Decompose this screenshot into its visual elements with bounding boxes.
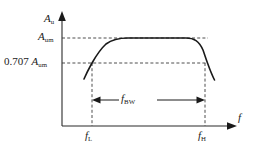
lower-cutoff-label: fL (85, 130, 92, 141)
gain-response-curve (84, 38, 215, 80)
x-axis-arrowhead (227, 122, 237, 130)
half-power-label: 0.707 Aum (4, 56, 47, 67)
x-axis-label: f (238, 112, 241, 123)
y-axis-arrowhead (58, 11, 66, 21)
midband-gain-label: Aum (38, 31, 54, 42)
bandwidth-label: fBW (121, 93, 135, 104)
upper-cutoff-label: fH (198, 130, 206, 141)
frequency-response-figure: Au Aum 0.707 Aum fBW fL fH f (0, 0, 254, 154)
bandwidth-arrow-left-head (92, 97, 101, 104)
y-axis-label: Au (44, 13, 54, 24)
plot-canvas (0, 0, 254, 154)
bandwidth-arrow-right-head (197, 97, 206, 104)
